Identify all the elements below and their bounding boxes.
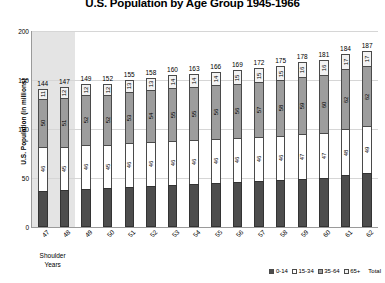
bar-group[interactable]: 60166047181	[313, 31, 335, 227]
bar-segment-65plus[interactable]: 15	[233, 70, 243, 85]
stacked-bar[interactable]: 115046144	[38, 89, 48, 227]
bar-group[interactable]: 50125245152	[97, 31, 119, 227]
bar-segment-0-14[interactable]	[103, 188, 113, 227]
stacked-bar[interactable]: 125145147	[60, 87, 70, 227]
stacked-bar[interactable]: 176248184	[341, 54, 351, 227]
bar-segment-0-14[interactable]	[233, 182, 243, 227]
stacked-bar[interactable]: 135346155	[125, 80, 135, 227]
bar-segment-15-34[interactable]: 46	[125, 143, 135, 188]
bar-group[interactable]: 52135446158	[140, 31, 162, 227]
bar-segment-0-14[interactable]	[60, 190, 70, 227]
bar-segment-35-64[interactable]: 59	[298, 77, 308, 135]
legend-item[interactable]: 0-14	[269, 268, 288, 274]
bar-group[interactable]: 54145546163	[183, 31, 205, 227]
bar-group[interactable]: 47115046144	[32, 31, 54, 227]
stacked-bar[interactable]: 145546163	[189, 74, 199, 227]
bar-segment-0-14[interactable]	[341, 175, 351, 227]
x-axis-tick-label: 51	[127, 228, 137, 238]
shoulder-years-line1: Shoulder	[23, 252, 83, 261]
bar-segment-35-64[interactable]: 52	[103, 95, 113, 146]
bar-segment-0-14[interactable]	[125, 187, 135, 227]
bar-segment-65plus[interactable]: 15	[254, 68, 264, 83]
bar-group[interactable]: 48125145147	[54, 31, 76, 227]
bar-segment-35-64[interactable]: 56	[233, 84, 243, 139]
bar-segment-value: 45	[105, 163, 111, 170]
bar-segment-35-64[interactable]: 53	[125, 92, 135, 144]
stacked-bar[interactable]: 155846175	[276, 66, 286, 227]
bar-group[interactable]: 59165947178	[292, 31, 314, 227]
bar-group[interactable]: 57155746172	[248, 31, 270, 227]
bar-segment-0-14[interactable]	[276, 180, 286, 227]
bar-segment-0-14[interactable]	[211, 183, 221, 227]
bar-segment-65plus[interactable]: 14	[211, 72, 221, 86]
bar-segment-35-64[interactable]: 54	[146, 90, 156, 143]
bar-segment-15-34[interactable]: 49	[362, 126, 372, 174]
bar-segment-15-34[interactable]: 46	[211, 139, 221, 184]
bar-segment-15-34[interactable]: 46	[168, 141, 178, 186]
bar-total-label: 147	[59, 78, 70, 85]
bar-group[interactable]: 56155646169	[227, 31, 249, 227]
bar-segment-15-34[interactable]: 46	[233, 138, 243, 183]
bar-segment-0-14[interactable]	[254, 181, 264, 227]
bar-segment-35-64[interactable]: 55	[189, 87, 199, 141]
x-axis-tick-label: 50	[105, 228, 115, 238]
bar-segment-value: 12	[61, 89, 67, 96]
bar-segment-15-34[interactable]: 46	[276, 136, 286, 181]
bar-segment-0-14[interactable]	[362, 173, 372, 227]
bar-segment-35-64[interactable]: 51	[60, 98, 70, 148]
bar-segment-65plus[interactable]: 17	[341, 54, 351, 71]
bar-segment-35-64[interactable]: 55	[168, 88, 178, 142]
bar-segment-15-34[interactable]: 46	[146, 142, 156, 187]
stacked-bar[interactable]: 155746172	[254, 68, 264, 227]
bar-segment-15-34[interactable]: 45	[103, 145, 113, 189]
stacked-bar[interactable]: 145646166	[211, 72, 221, 227]
bar-segment-35-64[interactable]: 57	[254, 82, 264, 138]
bar-segment-15-34[interactable]: 46	[254, 137, 264, 182]
bar-segment-35-64[interactable]: 50	[38, 99, 48, 148]
stacked-bar[interactable]: 176249187	[362, 51, 372, 227]
bar-segment-65plus[interactable]: 16	[298, 62, 308, 78]
bar-segment-0-14[interactable]	[189, 184, 199, 227]
bar-segment-0-14[interactable]	[319, 178, 329, 227]
stacked-bar[interactable]: 165947178	[298, 62, 308, 227]
bar-segment-15-34[interactable]: 47	[319, 133, 329, 179]
bar-segment-15-34[interactable]: 48	[341, 129, 351, 176]
stacked-bar[interactable]: 166047181	[319, 60, 329, 227]
bar-group[interactable]: 53145546160	[162, 31, 184, 227]
bar-group[interactable]: 62176249187	[356, 31, 378, 227]
bar-segment-0-14[interactable]	[81, 189, 91, 227]
bar-segment-35-64[interactable]: 52	[81, 95, 91, 146]
bar-segment-15-34[interactable]: 46	[189, 140, 199, 185]
bar-segment-35-64[interactable]: 60	[319, 75, 329, 134]
bar-segment-65plus[interactable]: 15	[276, 66, 286, 81]
bar-segment-35-64[interactable]: 62	[362, 66, 372, 127]
bar-segment-15-34[interactable]: 45	[60, 147, 70, 191]
legend-item[interactable]: 35-64	[318, 268, 340, 274]
bar-segment-15-34[interactable]: 47	[298, 134, 308, 180]
bar-segment-65plus[interactable]: 14	[168, 75, 178, 89]
bar-segment-65plus[interactable]: 17	[362, 51, 372, 68]
stacked-bar[interactable]: 135446158	[146, 78, 156, 227]
bar-group[interactable]: 49125246149	[75, 31, 97, 227]
stacked-bar[interactable]: 145546160	[168, 75, 178, 227]
stacked-bar[interactable]: 125245152	[103, 84, 113, 227]
bar-group[interactable]: 58155846175	[270, 31, 292, 227]
bar-segment-15-34[interactable]: 46	[38, 147, 48, 192]
bar-group[interactable]: 61176248184	[335, 31, 357, 227]
bar-segment-65plus[interactable]: 16	[319, 60, 329, 76]
bar-segment-35-64[interactable]: 58	[276, 80, 286, 137]
bar-segment-0-14[interactable]	[168, 185, 178, 227]
bar-segment-0-14[interactable]	[146, 186, 156, 227]
bar-group[interactable]: 51135346155	[119, 31, 141, 227]
bar-segment-65plus[interactable]: 14	[189, 74, 199, 88]
stacked-bar[interactable]: 125246149	[81, 84, 91, 227]
bar-segment-35-64[interactable]: 56	[211, 85, 221, 140]
stacked-bar[interactable]: 155646169	[233, 70, 243, 227]
bar-segment-35-64[interactable]: 62	[341, 69, 351, 130]
legend-item[interactable]: 65+	[344, 268, 361, 274]
bar-group[interactable]: 55145646166	[205, 31, 227, 227]
legend-item[interactable]: 15-34	[292, 268, 314, 274]
bar-segment-0-14[interactable]	[38, 191, 48, 227]
bar-segment-0-14[interactable]	[298, 179, 308, 227]
bar-segment-15-34[interactable]: 46	[81, 145, 91, 190]
